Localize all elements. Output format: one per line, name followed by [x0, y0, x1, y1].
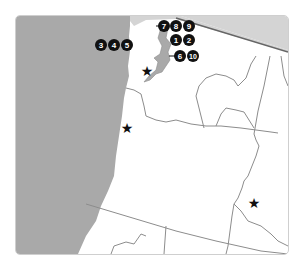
wa-river-2 — [216, 108, 254, 128]
snake-river — [234, 204, 288, 246]
marker-1[interactable]: 1 — [170, 34, 182, 46]
wa-id-border — [254, 56, 270, 156]
marker-label: 10 — [189, 53, 197, 60]
map: 78912610345 ★★★ — [15, 15, 289, 255]
marker-label: 8 — [174, 22, 179, 31]
marker-8[interactable]: 8 — [170, 20, 182, 32]
star-icon: ★ — [141, 63, 154, 79]
marker-2[interactable]: 2 — [183, 34, 195, 46]
marker-7[interactable]: 7 — [158, 20, 170, 32]
ca-river — [111, 234, 146, 254]
or-south-border — [86, 204, 288, 254]
marker-9[interactable]: 9 — [183, 20, 195, 32]
id-mt-border — [281, 56, 288, 86]
marker-label: 7 — [162, 22, 167, 31]
map-canvas: 78912610345 ★★★ — [16, 16, 288, 254]
marker-label: 5 — [125, 41, 130, 50]
marker-10[interactable]: 10 — [187, 50, 199, 62]
star-icon: ★ — [121, 120, 134, 136]
marker-6[interactable]: 6 — [174, 50, 186, 62]
marker-label: 2 — [187, 36, 192, 45]
ca-nv-border — [164, 226, 166, 254]
marker-4[interactable]: 4 — [108, 39, 120, 51]
marker-5[interactable]: 5 — [121, 39, 133, 51]
marker-label: 9 — [187, 22, 192, 31]
marker-label: 1 — [174, 36, 179, 45]
marker-3[interactable]: 3 — [95, 39, 107, 51]
ocean — [16, 16, 130, 254]
marker-label: 4 — [112, 41, 117, 50]
marker-label: 3 — [99, 41, 104, 50]
star-icon: ★ — [248, 195, 261, 211]
marker-label: 6 — [178, 52, 183, 61]
